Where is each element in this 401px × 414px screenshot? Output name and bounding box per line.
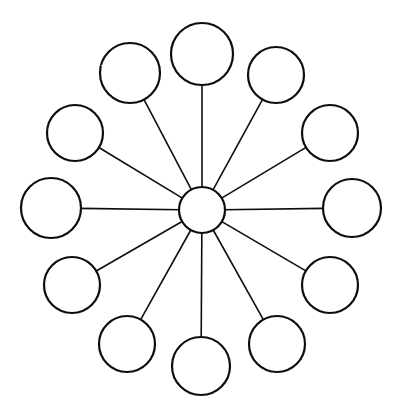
node-upper-right-2[interactable] [302,105,358,161]
spoke-to-node-upper-right-2 [220,147,307,199]
node-lower-right-1[interactable] [302,257,358,313]
node-lower-right-2[interactable] [249,316,305,372]
spoke-to-node-upper-left-1 [143,98,192,191]
node-left[interactable] [21,178,81,238]
node-lower-left-1[interactable] [44,257,100,313]
diagram-canvas [0,0,401,414]
spoke-to-node-upper-left-2 [98,147,184,199]
center-hub[interactable] [179,187,225,233]
node-upper-left-1[interactable] [100,43,160,103]
node-top[interactable] [171,23,233,85]
node-bottom[interactable] [172,337,230,395]
node-upper-left-2[interactable] [47,105,103,161]
spoke-to-node-lower-left-1 [95,221,183,272]
spoke-to-node-right [224,208,325,209]
node-lower-left-2[interactable] [99,316,155,372]
nodes-layer [21,23,381,395]
spoke-to-node-lower-right-1 [221,221,308,272]
node-upper-right-1[interactable] [248,47,304,103]
node-right[interactable] [323,179,381,237]
radial-diagram [0,0,401,414]
spoke-to-node-lower-left-2 [140,229,192,321]
spoke-to-node-bottom [201,232,202,339]
spoke-to-node-left [80,208,181,209]
